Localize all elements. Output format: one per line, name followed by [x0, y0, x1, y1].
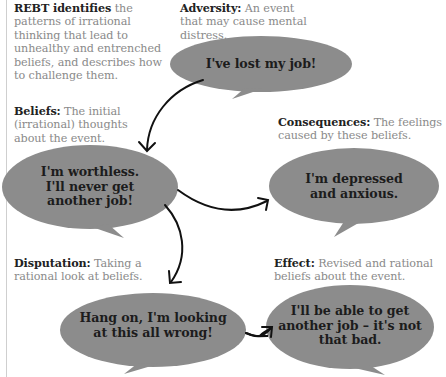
beliefs-label: Beliefs:	[14, 104, 61, 118]
beliefs-line: I'll never get	[20, 180, 160, 195]
beliefs-caption: Beliefs: The initial (irrational) though…	[14, 105, 134, 145]
effect-line: another job – it's not	[275, 319, 425, 334]
consequences-bubble-text: I'm depressed and anxious.	[284, 172, 424, 201]
adversity-bubble-text: I've lost my job!	[175, 57, 347, 72]
beliefs-line: I'm worthless.	[20, 165, 160, 180]
intro-caption: REBT identifies the patterns of irration…	[14, 2, 174, 82]
intro-heading: REBT identifies	[14, 1, 111, 15]
consequences-label: Consequences:	[278, 115, 370, 129]
beliefs-bubble-text: I'm worthless. I'll never get another jo…	[20, 165, 160, 209]
beliefs-line: another job!	[20, 194, 160, 209]
adversity-label: Adversity:	[180, 1, 241, 15]
disputation-caption: Disputation: Taking a rational look at b…	[14, 257, 174, 284]
disputation-label: Disputation:	[14, 256, 91, 270]
consequences-line: I'm depressed	[284, 172, 424, 187]
disputation-line: at this all wrong!	[63, 326, 243, 341]
adversity-caption: Adversity: An event that may cause menta…	[180, 2, 320, 42]
consequences-caption: Consequences: The feelings caused by the…	[278, 116, 446, 143]
effect-label: Effect:	[274, 256, 315, 270]
disputation-line: Hang on, I'm looking	[63, 311, 243, 326]
arrow-adversity-to-beliefs	[139, 80, 203, 151]
disputation-bubble-text: Hang on, I'm looking at this all wrong!	[63, 311, 243, 340]
consequences-line: and anxious.	[284, 187, 424, 202]
effect-line: that bad.	[275, 333, 425, 348]
effect-line: I'll be able to get	[275, 304, 425, 319]
effect-bubble-text: I'll be able to get another job – it's n…	[275, 304, 425, 348]
effect-caption: Effect: Revised and rational beliefs abo…	[274, 257, 444, 284]
arrow-beliefs-to-consequences	[178, 190, 268, 210]
